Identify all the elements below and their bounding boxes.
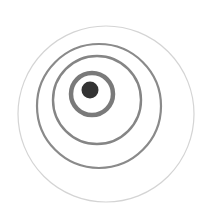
center-dot [82, 82, 99, 99]
concentric-rings-graphic [0, 0, 218, 210]
ring-3 [53, 56, 141, 144]
ring-4 [37, 44, 161, 168]
outer-ring [18, 26, 194, 202]
